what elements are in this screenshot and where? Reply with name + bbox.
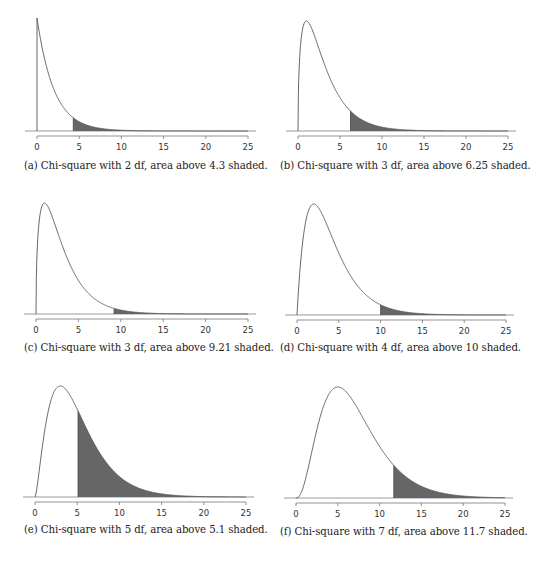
x-tick-label: 20 — [200, 325, 211, 335]
x-tick-label: 25 — [503, 142, 514, 152]
x-tick-label: 10 — [375, 326, 386, 336]
shaded-tail-area — [78, 411, 246, 497]
x-tick-label: 15 — [417, 326, 428, 336]
x-tick-label: 25 — [501, 326, 512, 336]
x-tick-label: 20 — [198, 508, 209, 518]
x-tick-label: 15 — [156, 508, 167, 518]
x-tick-label: 25 — [243, 325, 254, 335]
x-tick-label: 15 — [158, 142, 169, 152]
x-tick-label: 25 — [500, 509, 511, 519]
density-curve — [298, 21, 508, 131]
x-tick-label: 10 — [114, 508, 125, 518]
x-tick-label: 15 — [416, 509, 427, 519]
chart-panel-e: 0510152025 (e) Chi-square with 5 df, are… — [0, 380, 272, 561]
x-tick-label: 10 — [377, 142, 388, 152]
x-tick-label: 5 — [76, 142, 81, 152]
chart-panel-d: 0510152025 (d) Chi-square with 4 df, are… — [272, 190, 544, 375]
x-tick-label: 0 — [33, 325, 38, 335]
x-tick-label: 5 — [336, 326, 341, 336]
x-tick-label: 5 — [337, 142, 342, 152]
x-tick-label: 0 — [295, 142, 300, 152]
panel-caption: (e) Chi-square with 5 df, area above 5.1… — [24, 524, 268, 535]
panel-caption: (a) Chi-square with 2 df, area above 4.3… — [24, 160, 268, 171]
density-curve — [36, 203, 248, 314]
x-tick-label: 20 — [461, 142, 472, 152]
x-tick-label: 10 — [115, 325, 126, 335]
panel-caption: (b) Chi-square with 3 df, area above 6.2… — [280, 160, 531, 171]
x-tick-label: 0 — [32, 508, 37, 518]
x-tick-label: 10 — [374, 509, 385, 519]
chart-panel-f: 0510152025 (f) Chi-square with 7 df, are… — [272, 380, 544, 561]
x-tick-label: 5 — [335, 509, 340, 519]
x-tick-label: 0 — [34, 142, 39, 152]
chi-square-plot: 0510152025 — [272, 0, 544, 160]
x-tick-label: 25 — [241, 508, 252, 518]
chi-square-plot: 0510152025 — [0, 380, 272, 540]
chart-panel-b: 0510152025 (b) Chi-square with 3 df, are… — [272, 0, 544, 185]
shaded-tail-area — [394, 465, 505, 498]
density-curve — [297, 204, 506, 315]
x-tick-label: 10 — [116, 142, 127, 152]
x-tick-label: 25 — [243, 142, 254, 152]
shaded-tail-area — [381, 305, 506, 315]
density-curve — [37, 18, 248, 131]
panel-caption: (d) Chi-square with 4 df, area above 10 … — [280, 342, 521, 353]
x-tick-label: 15 — [419, 142, 430, 152]
x-tick-label: 15 — [158, 325, 169, 335]
panel-caption: (f) Chi-square with 7 df, area above 11.… — [280, 526, 528, 537]
chi-square-plot: 0510152025 — [272, 190, 544, 350]
chi-square-plot: 0510152025 — [0, 0, 272, 160]
chi-square-plot: 0510152025 — [272, 380, 544, 540]
panel-caption: (c) Chi-square with 3 df, area above 9.2… — [24, 342, 274, 353]
chi-square-plot: 0510152025 — [0, 190, 272, 350]
x-tick-label: 20 — [458, 509, 469, 519]
x-tick-label: 20 — [459, 326, 470, 336]
x-tick-label: 0 — [293, 509, 298, 519]
shaded-tail-area — [114, 308, 248, 314]
x-tick-label: 5 — [74, 508, 79, 518]
x-tick-label: 0 — [294, 326, 299, 336]
density-curve — [35, 386, 246, 497]
shaded-tail-area — [73, 118, 248, 131]
x-tick-label: 20 — [200, 142, 211, 152]
chart-panel-a: 0510152025 (a) Chi-square with 2 df, are… — [0, 0, 272, 185]
chart-panel-c: 0510152025 (c) Chi-square with 3 df, are… — [0, 190, 272, 375]
x-tick-label: 5 — [76, 325, 81, 335]
shaded-tail-area — [351, 111, 509, 131]
